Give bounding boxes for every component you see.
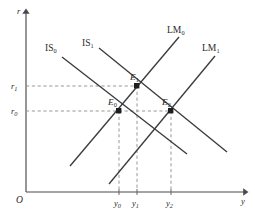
y-tick-sub-r0: 0 xyxy=(14,110,18,117)
axis-labels-group: r y O xyxy=(16,6,245,206)
e1-point-marker xyxy=(134,83,139,88)
y-tick-label-r1: r1 xyxy=(11,81,18,92)
y-axis-label: r xyxy=(17,6,21,16)
x-tick-sub-y1: 1 xyxy=(136,202,139,209)
y-tick-label-r0: r0 xyxy=(11,106,18,117)
is1-label-sub: 1 xyxy=(91,42,94,49)
x-tick-label-y2: y2 xyxy=(165,198,174,209)
e2-label-sub: 2 xyxy=(168,101,171,108)
is0-label-sub: 0 xyxy=(54,47,57,54)
x-tick-labels-group: y0 y1 y2 xyxy=(113,198,174,209)
x-tick-sub-y0: 0 xyxy=(118,202,122,209)
e2-point-marker xyxy=(168,108,173,113)
is0-curve-label: IS0 xyxy=(45,42,57,54)
e2-point-label: E2 xyxy=(161,97,171,108)
guide-lines-group xyxy=(26,86,171,189)
lm1-curve-label: LM1 xyxy=(202,42,220,54)
curves-group xyxy=(62,37,227,184)
e0-label-sub: 0 xyxy=(114,101,117,108)
e1-point-label: E1 xyxy=(129,72,139,83)
is0-label-base: IS xyxy=(45,42,54,53)
curve-labels-group: IS0 IS1 LM0 LM1 xyxy=(45,24,220,54)
x-axis-label: y xyxy=(240,196,245,206)
x-tick-sub-y2: 2 xyxy=(170,202,174,209)
lm0-label-sub: 0 xyxy=(181,29,184,36)
e1-label-sub: 1 xyxy=(136,76,139,83)
y-tick-sub-r1: 1 xyxy=(14,85,17,92)
diagram-canvas: r y O r1 r0 y0 y1 y2 xyxy=(0,0,255,213)
lm1-label-sub: 1 xyxy=(216,47,219,54)
e0-point-marker xyxy=(116,108,121,113)
origin-label: O xyxy=(16,194,23,205)
lm0-curve-label: LM0 xyxy=(167,24,185,36)
lm0-label-base: LM xyxy=(167,24,182,35)
is-lm-diagram: r y O r1 r0 y0 y1 y2 xyxy=(0,0,255,213)
axes-group xyxy=(26,12,245,192)
equilibrium-labels-group: E0 E1 E2 xyxy=(107,72,171,108)
x-tick-label-y1: y1 xyxy=(131,198,139,209)
lm1-label-base: LM xyxy=(202,42,217,53)
is1-label-base: IS xyxy=(82,37,91,48)
is1-curve-label: IS1 xyxy=(82,37,94,49)
y-tick-labels-group: r1 r0 xyxy=(11,81,18,117)
lm1-curve xyxy=(109,56,215,184)
x-tick-label-y0: y0 xyxy=(113,198,122,209)
